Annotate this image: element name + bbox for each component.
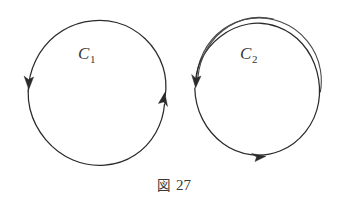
curve-c1-label-letter: C <box>78 44 90 63</box>
curve-c1-group <box>24 20 168 165</box>
curve-c1-label-subscript: 1 <box>90 53 96 65</box>
curve-c2-label-subscript: 2 <box>252 53 258 65</box>
figure-caption: 図27 <box>0 174 348 194</box>
curve-c2-label-letter: C <box>240 44 252 63</box>
curve-c1-right-arrow-icon <box>158 93 167 107</box>
curve-c1-left-arrow-icon <box>24 76 34 90</box>
curve-c2-path-outer <box>196 18 321 92</box>
curve-c2-path-inner <box>195 23 320 155</box>
figure-caption-kanji: 図 <box>157 177 170 193</box>
curve-c2-label: C2 <box>240 44 258 65</box>
curve-c1-path-upper <box>28 20 166 96</box>
figure-caption-number: 27 <box>176 177 191 193</box>
curve-c2-group <box>192 18 322 162</box>
curve-c1-path <box>28 91 164 165</box>
figure-27-container: C1 C2 図27 <box>0 0 348 216</box>
curve-c1-label: C1 <box>78 44 96 65</box>
